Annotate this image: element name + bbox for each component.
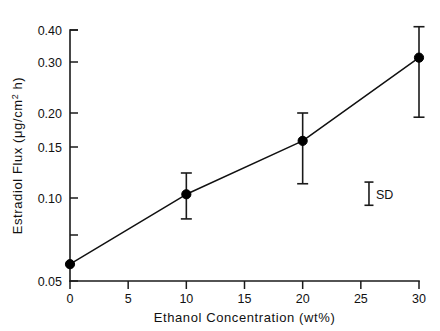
data-point-marker bbox=[182, 190, 191, 199]
x-tick-label: 20 bbox=[296, 292, 310, 306]
data-point-marker bbox=[65, 260, 74, 269]
x-tick-label: 5 bbox=[125, 292, 132, 306]
y-tick-label: 0.15 bbox=[38, 141, 62, 155]
figure-root: 0.050.100.150.200.300.40 051015202530 SD… bbox=[0, 0, 440, 331]
y-tick-label: 0.30 bbox=[38, 56, 62, 70]
data-point-markers bbox=[65, 53, 423, 269]
y-tick-label: 0.05 bbox=[38, 275, 62, 289]
x-tick-label: 10 bbox=[179, 292, 193, 306]
sd-label: SD bbox=[376, 188, 393, 202]
series-line bbox=[70, 58, 419, 265]
y-axis-title: Estradiol Flux (μg/cm2 h) bbox=[10, 77, 25, 235]
data-point-marker bbox=[298, 136, 307, 145]
y-tick-label: 0.20 bbox=[38, 107, 62, 121]
data-series-estradiol-flux bbox=[65, 27, 424, 269]
x-axis-tick-labels: 051015202530 bbox=[67, 292, 426, 306]
x-axis-title: Ethanol Concentration (wt%) bbox=[154, 310, 336, 325]
x-tick-label: 15 bbox=[238, 292, 252, 306]
y-axis-tick-labels: 0.050.100.150.200.300.40 bbox=[38, 24, 62, 289]
x-tick-label: 25 bbox=[354, 292, 368, 306]
x-axis-ticks bbox=[70, 281, 419, 289]
x-tick-label: 0 bbox=[67, 292, 74, 306]
y-tick-label: 0.40 bbox=[38, 24, 62, 38]
x-tick-label: 30 bbox=[412, 292, 426, 306]
estradiol-flux-line-chart: 0.050.100.150.200.300.40 051015202530 SD… bbox=[0, 0, 440, 331]
y-tick-label: 0.10 bbox=[38, 192, 62, 206]
data-point-marker bbox=[414, 53, 423, 62]
sd-legend-annotation: SD bbox=[364, 182, 393, 205]
y-axis-ticks bbox=[70, 30, 78, 281]
